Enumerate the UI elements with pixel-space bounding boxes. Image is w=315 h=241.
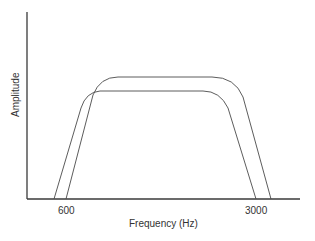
curve-lower-plateau <box>54 91 256 199</box>
frequency-response-diagram <box>0 0 315 241</box>
x-axis-title: Frequency (Hz) <box>129 218 198 229</box>
x-tick-3000: 3000 <box>245 205 267 216</box>
y-axis-title: Amplitude <box>10 73 21 117</box>
x-tick-600: 600 <box>58 205 75 216</box>
curve-higher-plateau <box>66 77 271 199</box>
